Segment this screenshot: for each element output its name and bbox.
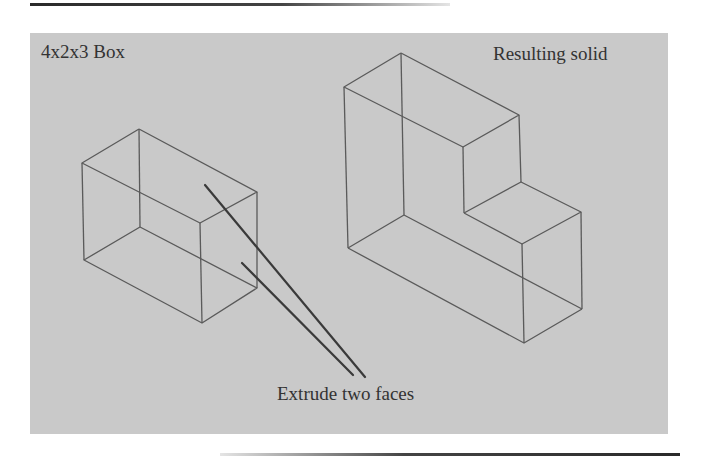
result-label: Resulting solid <box>493 44 608 63</box>
bottom-rule <box>220 453 680 456</box>
callout-leaders <box>205 185 365 377</box>
leader-line-front-face <box>242 263 353 375</box>
l-shaped-solid-wireframe <box>344 53 582 343</box>
callout-label: Extrude two faces <box>277 384 414 403</box>
box-label: 4x2x3 Box <box>41 42 125 61</box>
box-wireframe <box>82 129 257 323</box>
leader-line-top-face <box>205 185 365 377</box>
